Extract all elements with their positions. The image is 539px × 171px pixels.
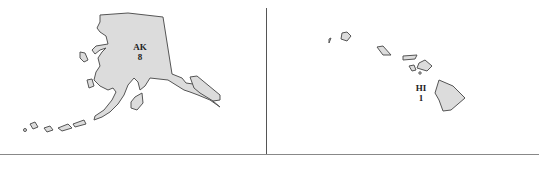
alaska-shape[interactable] [0, 0, 266, 155]
state-abbr: HI [411, 83, 431, 93]
state-abbr: AK [128, 42, 152, 52]
alaska-inset: AK 8 [0, 0, 266, 155]
state-label-ak: AK 8 [128, 42, 152, 62]
hawaii-inset: HI 1 [267, 0, 539, 155]
state-label-hi: HI 1 [411, 83, 431, 103]
state-value: 1 [411, 93, 431, 103]
hawaii-shapes[interactable] [267, 0, 539, 155]
bottom-rule [0, 154, 539, 155]
state-value: 8 [128, 52, 152, 62]
